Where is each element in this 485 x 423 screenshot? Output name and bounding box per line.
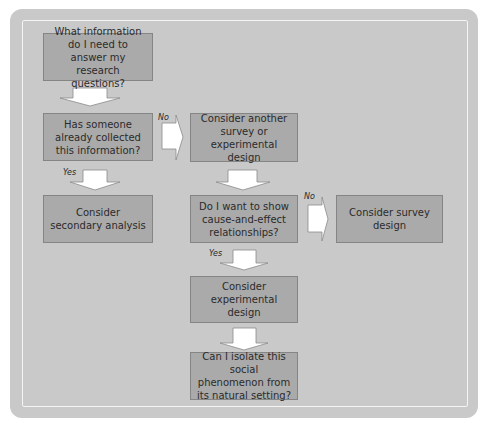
down-arrow-icon	[216, 170, 270, 190]
edge-label-yes: Yes	[209, 249, 222, 258]
node-another-design: Consider another survey or experimental …	[190, 113, 298, 162]
node-experimental-design: Consider experimental design	[190, 276, 298, 323]
down-arrow-icon	[70, 170, 120, 190]
right-arrow-icon	[308, 197, 328, 241]
node-secondary-analysis: Consider secondary analysis	[43, 195, 153, 243]
edge-label-yes: Yes	[63, 168, 76, 177]
node-research-questions: What information do I need to answer my …	[43, 33, 153, 81]
edge-label-no: No	[158, 113, 169, 122]
node-cause-effect: Do I want to show cause-and-effect relat…	[190, 195, 298, 243]
down-arrow-icon	[60, 88, 120, 106]
down-arrow-icon	[220, 250, 268, 270]
node-already-collected: Has someone already collected this infor…	[43, 113, 153, 161]
node-survey-design: Consider survey design	[336, 195, 443, 243]
edge-label-no: No	[304, 192, 315, 201]
node-isolate-phenomenon: Can I isolate this social phenomenon fro…	[190, 352, 298, 400]
down-arrow-icon	[220, 328, 268, 350]
